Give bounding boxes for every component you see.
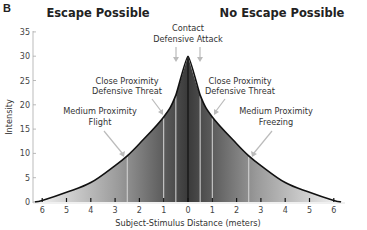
arrow-icon [254, 131, 272, 153]
y-tick-label: 15 [20, 125, 30, 134]
x-tick-label: 6 [331, 206, 336, 215]
y-tick-label: 10 [20, 149, 30, 158]
x-tick-label: 2 [234, 206, 239, 215]
arrow-head-icon [251, 151, 257, 157]
x-tick-label: 1 [161, 206, 166, 215]
annotation-line: Medium Proximity [63, 106, 137, 116]
annotation-line: Defensive Attack [153, 34, 223, 44]
annotation-line: Freezing [259, 117, 293, 127]
y-tick-label: 0 [25, 198, 30, 207]
annotation-line: Contact [172, 23, 205, 33]
region-title-no-escape-possible: No Escape Possible [220, 6, 345, 20]
annotation-line: Defensive Threat [205, 86, 276, 96]
y-tick-label: 30 [20, 52, 30, 61]
arrow-icon [216, 99, 225, 111]
y-tick-label: 35 [20, 28, 30, 37]
annotation-line: Close Proximity [208, 76, 271, 86]
annotation-medium-proximity-freezing: Medium Proximity Freezing [239, 106, 313, 157]
region-title-escape-possible: Escape Possible [46, 6, 149, 20]
arrow-icon [104, 131, 122, 153]
arrow-icon [152, 99, 161, 111]
x-tick-label: 5 [307, 206, 312, 215]
arrow-head-icon [119, 151, 125, 157]
y-tick-label: 20 [20, 101, 30, 110]
y-tick-label: 25 [20, 77, 30, 86]
arrow-head-icon [173, 57, 179, 62]
annotation-medium-proximity-flight: Medium Proximity Flight [63, 106, 137, 157]
x-tick-label: 3 [258, 206, 263, 215]
y-axis: 05101520253035 [20, 28, 36, 207]
x-tick-label: 5 [64, 206, 69, 215]
chart-figure: B Escape Possible No Escape Possible 051… [0, 0, 367, 230]
x-tick-label: 3 [113, 206, 118, 215]
x-axis-label: Subject-Stimulus Distance (meters) [115, 218, 260, 228]
annotation-line: Medium Proximity [239, 106, 313, 116]
y-axis-label: Intensity [4, 99, 14, 135]
x-tick-label: 1 [210, 206, 215, 215]
panel-letter: B [3, 2, 11, 14]
x-tick-label: 4 [283, 206, 288, 215]
y-tick-label: 5 [25, 174, 30, 183]
x-tick-label: 6 [40, 206, 45, 215]
annotation-line: Close Proximity [95, 76, 158, 86]
x-tick-label: 4 [88, 206, 93, 215]
x-tick-label: 2 [137, 206, 142, 215]
annotation-line: Flight [89, 117, 113, 127]
x-tick-label: 0 [185, 206, 190, 215]
annotation-line: Defensive Threat [92, 86, 163, 96]
arrow-head-icon [197, 57, 203, 62]
